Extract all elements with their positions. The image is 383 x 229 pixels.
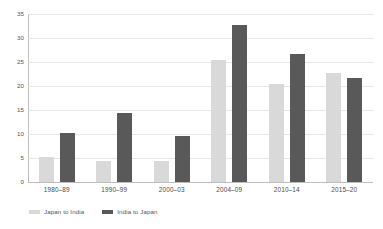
- x-tick-label: 2000–03: [143, 186, 201, 193]
- bar-group: [86, 14, 144, 182]
- bar-group: [258, 14, 316, 182]
- y-tick-label: 5: [2, 155, 24, 161]
- bar-groups: [28, 14, 373, 182]
- y-tick-label: 25: [2, 59, 24, 65]
- bar-india-to-japan[interactable]: [290, 54, 305, 182]
- y-tick-label: 20: [2, 83, 24, 89]
- bar-japan-to-india[interactable]: [39, 157, 54, 182]
- bar-chart: 35 30 25 20 15 10 5 0: [0, 0, 383, 229]
- bar-group: [28, 14, 86, 182]
- bar-japan-to-india[interactable]: [326, 73, 341, 182]
- bar-india-to-japan[interactable]: [232, 25, 247, 182]
- x-axis-tick-labels: 1980–89 1990–99 2000–03 2004–09 2010–14 …: [28, 186, 373, 193]
- x-tick-label: 2015–20: [316, 186, 374, 193]
- bar-india-to-japan[interactable]: [60, 133, 75, 182]
- bar-india-to-japan[interactable]: [347, 78, 362, 182]
- bar-group: [143, 14, 201, 182]
- bar-group: [316, 14, 374, 182]
- bar-japan-to-india[interactable]: [154, 161, 169, 182]
- y-tick-label: 10: [2, 131, 24, 137]
- y-tick-label: 30: [2, 35, 24, 41]
- y-tick-label: 35: [2, 11, 24, 17]
- bar-group: [201, 14, 259, 182]
- bar-japan-to-india[interactable]: [211, 60, 226, 182]
- legend-item-japan-to-india[interactable]: Japan to India: [29, 208, 84, 215]
- y-tick-label: 15: [2, 107, 24, 113]
- legend-swatch-icon: [102, 210, 113, 214]
- bar-japan-to-india[interactable]: [269, 84, 284, 182]
- y-tick-label: 0: [2, 179, 24, 185]
- x-tick-label: 2004–09: [201, 186, 259, 193]
- legend-item-india-to-japan[interactable]: India to Japan: [102, 208, 157, 215]
- x-tick-label: 1980–89: [28, 186, 86, 193]
- legend-label: India to Japan: [117, 208, 157, 215]
- legend-swatch-icon: [29, 210, 40, 214]
- bar-india-to-japan[interactable]: [117, 113, 132, 182]
- legend-label: Japan to India: [44, 208, 84, 215]
- x-axis-baseline: [28, 182, 373, 183]
- bar-india-to-japan[interactable]: [175, 136, 190, 182]
- y-axis-tick-labels: 35 30 25 20 15 10 5 0: [0, 0, 24, 229]
- bar-japan-to-india[interactable]: [96, 161, 111, 182]
- chart-legend: Japan to India India to Japan: [29, 208, 176, 215]
- x-tick-label: 1990–99: [86, 186, 144, 193]
- x-tick-label: 2010–14: [258, 186, 316, 193]
